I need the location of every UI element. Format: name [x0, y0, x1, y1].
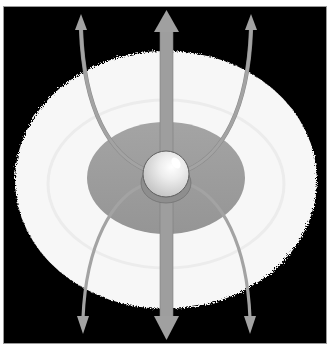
jet-shaft-lower — [160, 190, 173, 318]
accretion-disk-diagram — [0, 0, 331, 346]
jet-shaft-upper — [160, 30, 173, 160]
diagram-canvas: Accretion disk with bipolar jets and mag… — [0, 0, 331, 346]
central-body — [143, 151, 189, 197]
